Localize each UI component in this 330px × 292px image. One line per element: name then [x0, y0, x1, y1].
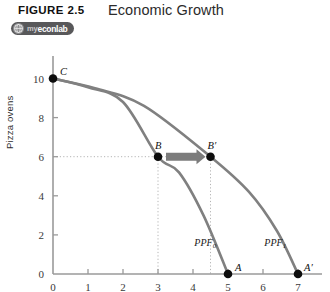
- figure-title: Economic Growth: [108, 2, 224, 18]
- point-b-prime-label: B′: [208, 140, 217, 151]
- chart-area: 024681001234567 CBB′AA′PPF0PPF1 Pizza ov…: [0, 44, 330, 292]
- data-points: [49, 74, 303, 278]
- growth-arrow: [166, 149, 206, 164]
- ppf-label-1: PPF1: [263, 237, 286, 251]
- figure-header: FIGURE 2.5 Economic Growth my econlab: [0, 0, 330, 44]
- x-tick-label-5: 5: [225, 281, 231, 292]
- y-tick-label-8: 8: [39, 112, 45, 124]
- y-tick-label-10: 10: [33, 73, 45, 85]
- x-tick-label-1: 1: [85, 281, 91, 292]
- point-c-label: C: [60, 66, 68, 77]
- x-tick-label-0: 0: [50, 281, 56, 292]
- myeconlab-badge[interactable]: my econlab: [11, 22, 74, 35]
- point-a-label: A: [234, 262, 242, 273]
- badge-name: econlab: [37, 24, 67, 34]
- badge-prefix: my: [27, 24, 37, 33]
- point-b-prime: [206, 152, 215, 161]
- curve-ppf1: [53, 79, 298, 275]
- y-tick-label-2: 2: [39, 229, 45, 241]
- point-a: [224, 270, 233, 279]
- point-a-prime-label: A′: [303, 262, 313, 273]
- point-b-label: B: [155, 140, 162, 151]
- guide-lines: [53, 157, 211, 274]
- point-c: [49, 74, 58, 83]
- x-tick-label-7: 7: [295, 281, 301, 292]
- x-tick-label-4: 4: [190, 281, 196, 292]
- ppf-chart: 024681001234567 CBB′AA′PPF0PPF1 Pizza ov…: [0, 44, 330, 292]
- figure-number: FIGURE 2.5: [18, 4, 85, 16]
- y-tick-label-4: 4: [39, 190, 45, 202]
- myeconlab-globe-icon: [13, 23, 24, 34]
- y-axis-title: Pizza ovens: [4, 96, 15, 149]
- x-tick-label-6: 6: [260, 281, 266, 292]
- x-tick-label-3: 3: [155, 281, 161, 292]
- chart-labels: CBB′AA′PPF0PPF1: [60, 66, 313, 274]
- point-a-prime: [294, 270, 303, 279]
- y-tick-label-6: 6: [39, 151, 45, 163]
- y-tick-label-0: 0: [39, 268, 45, 280]
- ppf-curves: [53, 79, 298, 275]
- axis-ticks: 024681001234567: [33, 73, 301, 292]
- x-tick-label-2: 2: [120, 281, 126, 292]
- point-b: [154, 152, 163, 161]
- growth-arrow: [166, 149, 206, 164]
- figure-container: FIGURE 2.5 Economic Growth my econlab 02…: [0, 0, 330, 292]
